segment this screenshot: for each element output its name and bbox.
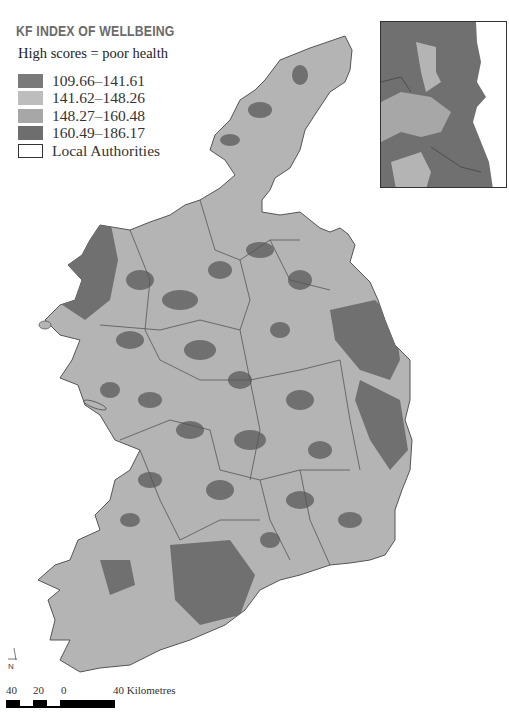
north-arrow: N — [6, 648, 18, 671]
legend-item: 148.27–160.48 — [18, 107, 209, 125]
map-legend: KF INDEX OF WELLBEING High scores = poor… — [18, 22, 209, 160]
legend-swatch — [18, 74, 43, 88]
scale-gap — [20, 706, 33, 708]
legend-swatch-outline — [18, 144, 43, 158]
scale-tick: 20 — [33, 684, 44, 696]
scale-tick: 40 Kilometres — [113, 684, 176, 696]
north-arrow-icon — [6, 648, 18, 662]
north-label: N — [8, 662, 18, 671]
legend-label: 160.49–186.17 — [52, 124, 145, 142]
legend-swatch — [18, 91, 43, 105]
scale-tick: 0 — [61, 684, 67, 696]
legend-title: KF INDEX OF WELLBEING — [16, 22, 175, 39]
scale-gap — [47, 706, 60, 708]
legend-label: Local Authorities — [52, 142, 160, 160]
legend-subtitle: High scores = poor health — [18, 45, 209, 62]
scale-segment — [6, 700, 20, 708]
dublin-inset-map — [380, 21, 507, 188]
scale-segment — [60, 700, 115, 708]
legend-label: 141.62–148.26 — [52, 89, 145, 107]
scale-segment — [33, 700, 47, 708]
legend-item: 160.49–186.17 — [18, 125, 209, 143]
legend-swatch — [18, 109, 43, 123]
scale-tick: 40 — [6, 684, 17, 696]
legend-item: Local Authorities — [18, 142, 209, 160]
legend-item: 109.66–141.61 — [18, 72, 209, 90]
legend-label: 148.27–160.48 — [52, 107, 145, 125]
legend-label: 109.66–141.61 — [52, 72, 145, 90]
legend-swatch — [18, 126, 43, 140]
legend-item: 141.62–148.26 — [18, 90, 209, 108]
